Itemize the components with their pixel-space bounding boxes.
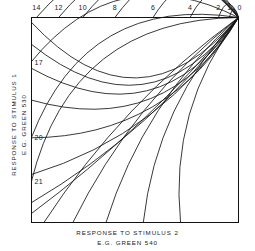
- response-contour-figure: 141210864210 172021 RESPONSE TO STIMULUS…: [0, 0, 255, 251]
- top-axis-tick-10: 10: [79, 4, 87, 11]
- left-axis-tick-17: 17: [35, 59, 43, 66]
- top-axis-tick-2: 2: [216, 4, 220, 11]
- left-axis-tick-21: 21: [35, 178, 43, 185]
- top-axis-tick-6: 6: [151, 4, 155, 11]
- top-axis-tick-12: 12: [54, 4, 62, 11]
- top-axis-tick-4: 4: [188, 4, 192, 11]
- y-axis-title-line2: E.G. GREEN 530: [19, 20, 29, 230]
- contour-curve-mirror-6: [32, 18, 239, 203]
- contour-curve-mirror-7: [32, 18, 239, 214]
- contour-curve-21: [32, 18, 239, 182]
- x-axis-title-line2: E.G. GREEN 540: [0, 238, 255, 248]
- contour-curve-lower-4: [179, 18, 239, 223]
- contour-curve-lower-3: [143, 18, 238, 223]
- x-axis-title: RESPONSE TO STIMULUS 2 E.G. GREEN 540: [0, 228, 255, 247]
- top-axis-tick-14: 14: [32, 4, 40, 11]
- contour-curve-mirror-1: [32, 18, 239, 86]
- y-axis-title: RESPONSE TO STIMULUS 1 E.G. GREEN 530: [9, 20, 28, 230]
- contour-curves: [32, 0, 239, 222]
- contour-curve-20: [32, 14, 239, 137]
- contour-plot-canvas: [0, 0, 255, 251]
- top-axis-tick-0: 0: [237, 4, 241, 11]
- y-axis-title-line1: RESPONSE TO STIMULUS 1: [9, 20, 19, 230]
- contour-curve-lower-0: [44, 18, 239, 223]
- top-axis-tick-1: 1: [227, 4, 231, 11]
- left-axis-tick-20: 20: [35, 134, 43, 141]
- contour-curve-mirror-3: [32, 18, 239, 110]
- top-axis-tick-8: 8: [113, 4, 117, 11]
- x-axis-title-line1: RESPONSE TO STIMULUS 2: [0, 228, 255, 238]
